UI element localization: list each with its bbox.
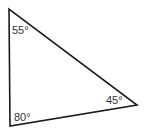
angle-label-right: 45° bbox=[106, 94, 123, 106]
angle-label-top: 55° bbox=[12, 24, 29, 36]
angle-label-bottom-left: 80° bbox=[14, 111, 31, 123]
triangle-diagram: 55° 45° 80° bbox=[0, 0, 146, 133]
